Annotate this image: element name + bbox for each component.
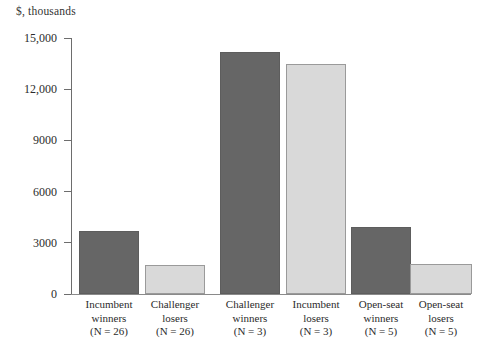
y-axis-tick-label: 12,000 [24, 82, 57, 97]
bar [286, 64, 346, 294]
bar [220, 52, 280, 294]
y-axis-tick-label: 0 [51, 287, 57, 302]
y-axis-tick: 9000 [64, 140, 71, 141]
x-axis-label: Challengerlosers(N = 26) [137, 298, 213, 339]
y-axis-tick-label: 9000 [33, 133, 57, 148]
x-axis-label-line: Open-seat [402, 298, 480, 312]
x-axis-label: Incumbentwinners(N = 26) [71, 298, 147, 339]
x-axis-label-line: (N = 5) [402, 325, 480, 339]
x-axis-label-line: Incumbent [71, 298, 147, 312]
bar [145, 265, 205, 294]
x-axis-label-line: (N = 26) [71, 325, 147, 339]
y-axis-tick: 15,000 [64, 38, 71, 39]
bar [79, 231, 139, 294]
bar-chart-figure: $, thousands 15,00012,0009000600030000 I… [0, 0, 484, 356]
y-axis-tick-label: 15,000 [24, 31, 57, 46]
y-axis-tick-label: 6000 [33, 184, 57, 199]
y-axis-tick: 12,000 [64, 89, 71, 90]
y-axis-tick: 3000 [64, 242, 71, 243]
chart-title: $, thousands [16, 5, 76, 17]
y-axis-tick: 6000 [64, 191, 71, 192]
x-axis-label-line: winners [71, 312, 147, 326]
x-axis-label-line: Challenger [212, 298, 288, 312]
x-axis-line [71, 294, 471, 295]
x-axis-label-line: losers [137, 312, 213, 326]
bar [351, 227, 411, 294]
y-axis-tick-label: 3000 [33, 235, 57, 250]
bar [410, 264, 472, 294]
y-axis-tick: 0 [64, 294, 71, 295]
x-axis-label: Challengerwinners(N = 3) [212, 298, 288, 339]
x-axis-label-line: (N = 26) [137, 325, 213, 339]
y-axis-line [71, 38, 72, 295]
x-axis-label-line: losers [402, 312, 480, 326]
x-axis-label: Open-seatlosers(N = 5) [402, 298, 480, 339]
x-axis-label-line: Challenger [137, 298, 213, 312]
x-axis-label-line: (N = 3) [212, 325, 288, 339]
x-axis-label-line: winners [212, 312, 288, 326]
